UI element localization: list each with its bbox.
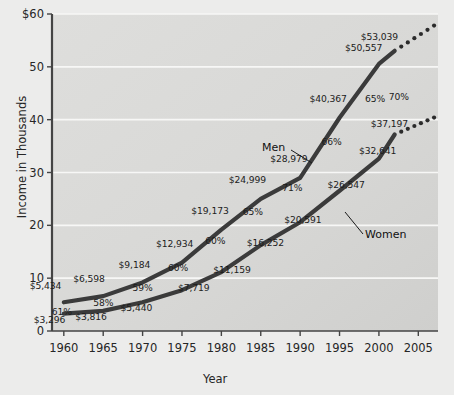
- ratio-label: 66%: [322, 136, 342, 147]
- men-value-label: $19,173: [191, 205, 228, 216]
- women-value-label: $26,547: [328, 179, 365, 190]
- ratio-label: 60%: [205, 235, 225, 246]
- women-value-label: $32,641: [359, 145, 396, 156]
- ratio-label: 71%: [282, 182, 302, 193]
- women-value-label: $20,591: [284, 214, 321, 225]
- y-tick-label: 0: [10, 324, 44, 338]
- y-axis-title: Income in Thousands: [15, 87, 29, 227]
- chart-plot-area: [0, 0, 454, 395]
- men-value-label: $24,999: [229, 174, 266, 185]
- ratio-label: 65%: [243, 206, 263, 217]
- x-tick-label: 1975: [160, 341, 204, 355]
- x-tick-label: 2000: [357, 341, 401, 355]
- y-tick-label: 50: [10, 60, 44, 74]
- chart-container: $605040302010019601965197019751980198519…: [0, 0, 454, 395]
- men-value-label: $12,934: [156, 238, 193, 249]
- x-tick-label: 1995: [318, 341, 362, 355]
- men-value-label: $5,434: [30, 280, 62, 291]
- men-value-label: $50,557: [345, 42, 382, 53]
- series-label-women: Women: [365, 228, 406, 241]
- y-tick-label: $60: [10, 7, 44, 21]
- x-tick-label: 1960: [42, 341, 86, 355]
- ratio-label: 61%: [52, 306, 72, 317]
- x-tick-label: 1990: [278, 341, 322, 355]
- x-tick-label: 1985: [239, 341, 283, 355]
- men-value-label: $53,039: [361, 31, 398, 42]
- x-tick-label: 1980: [199, 341, 243, 355]
- women-value-label: $11,159: [213, 264, 250, 275]
- ratio-label: 70%: [389, 91, 409, 102]
- series-label-men: Men: [262, 141, 285, 154]
- ratio-label: 65%: [365, 93, 385, 104]
- ratio-label: 59%: [133, 282, 153, 293]
- ratio-label: 58%: [93, 297, 113, 308]
- men-value-label: $6,598: [73, 273, 105, 284]
- x-axis-title: Year: [203, 372, 227, 386]
- men-value-label: $9,184: [119, 259, 151, 270]
- women-value-label: $3,816: [75, 311, 107, 322]
- men-value-label: $40,367: [310, 93, 347, 104]
- women-value-label: $5,440: [121, 302, 153, 313]
- ratio-label: 60%: [168, 262, 188, 273]
- men-value-label: $28,979: [270, 153, 307, 164]
- women-value-label: $16,252: [247, 237, 284, 248]
- x-tick-label: 1970: [121, 341, 165, 355]
- women-value-label: $7,719: [178, 282, 210, 293]
- x-tick-label: 2005: [396, 341, 440, 355]
- women-value-label: $37,197: [371, 118, 408, 129]
- x-tick-label: 1965: [81, 341, 125, 355]
